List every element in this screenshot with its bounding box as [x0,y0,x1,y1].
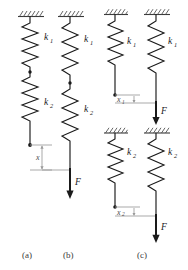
dimension-c-x2: x 2 [115,207,156,217]
ceiling-a [18,11,44,17]
force-arrow-b: F [66,168,81,199]
spring-c-lower-right-k2 [148,133,164,216]
spring-sublabel-c-ll-k2: 2 [133,152,137,159]
ceiling-c-upper-left [104,9,128,14]
spring-label-a-k2: k [44,97,49,107]
ceiling-c-lower-left [104,128,128,133]
displacement-label-c-x1: x [116,95,121,104]
displacement-label-c-x2: x [116,208,121,217]
spring-label-b-k1: k [84,34,89,44]
ceiling-c-upper-right [144,9,170,14]
panel-c: k 1 k 1 x 1 F [104,9,178,243]
spring-label-c-ur-k1: k [168,36,173,46]
spring-a-k2 [22,72,38,145]
spring-sublabel-c-ur-k1: 1 [174,41,177,48]
spring-label-b-k2: k [84,104,89,114]
spring-c-upper-left-k1 [108,15,123,96]
spring-sublabel-b-k2: 2 [90,109,94,116]
ceiling-b [58,11,84,17]
spring-a-k1 [22,17,38,73]
spring-b-k1 [62,17,78,84]
spring-b-k2 [62,83,78,170]
displacement-sublabel-c-x1: 1 [122,99,125,105]
spring-label-c-lr-k2: k [168,147,173,157]
spring-system-figure: k 1 k 2 x k 1 k 2 [0,0,188,270]
spring-label-c-ll-k2: k [127,147,132,157]
spring-sublabel-a-k2: 2 [50,102,54,109]
spring-label-c-ul-k1: k [127,36,132,46]
spring-c-upper-right-k1 [148,15,164,104]
caption-c: (c) [137,250,147,260]
force-label-b: F [74,177,81,187]
caption-b: (b) [63,250,74,260]
force-arrow-c-upper: F [152,101,167,125]
spring-sublabel-a-k1: 1 [50,37,53,44]
spring-sublabel-c-lr-k2: 2 [174,152,178,159]
force-arrow-c-lower: F [152,214,167,243]
spring-label-a-k1: k [44,32,49,42]
caption-a: (a) [22,250,32,260]
spring-c-lower-left-k2 [108,133,123,207]
displacement-label-a: x [35,153,40,162]
spring-sublabel-b-k1: 1 [90,39,93,46]
ceiling-c-lower-right [144,128,170,133]
panel-a: k 1 k 2 x [18,11,54,170]
dimension-c-x1: x 1 [115,95,156,105]
force-label-c-upper: F [160,106,167,116]
displacement-sublabel-c-x2: 2 [122,211,125,217]
force-label-c-lower: F [160,222,167,232]
dimension-a-x: x [30,145,52,170]
spring-sublabel-c-ul-k1: 1 [133,41,136,48]
